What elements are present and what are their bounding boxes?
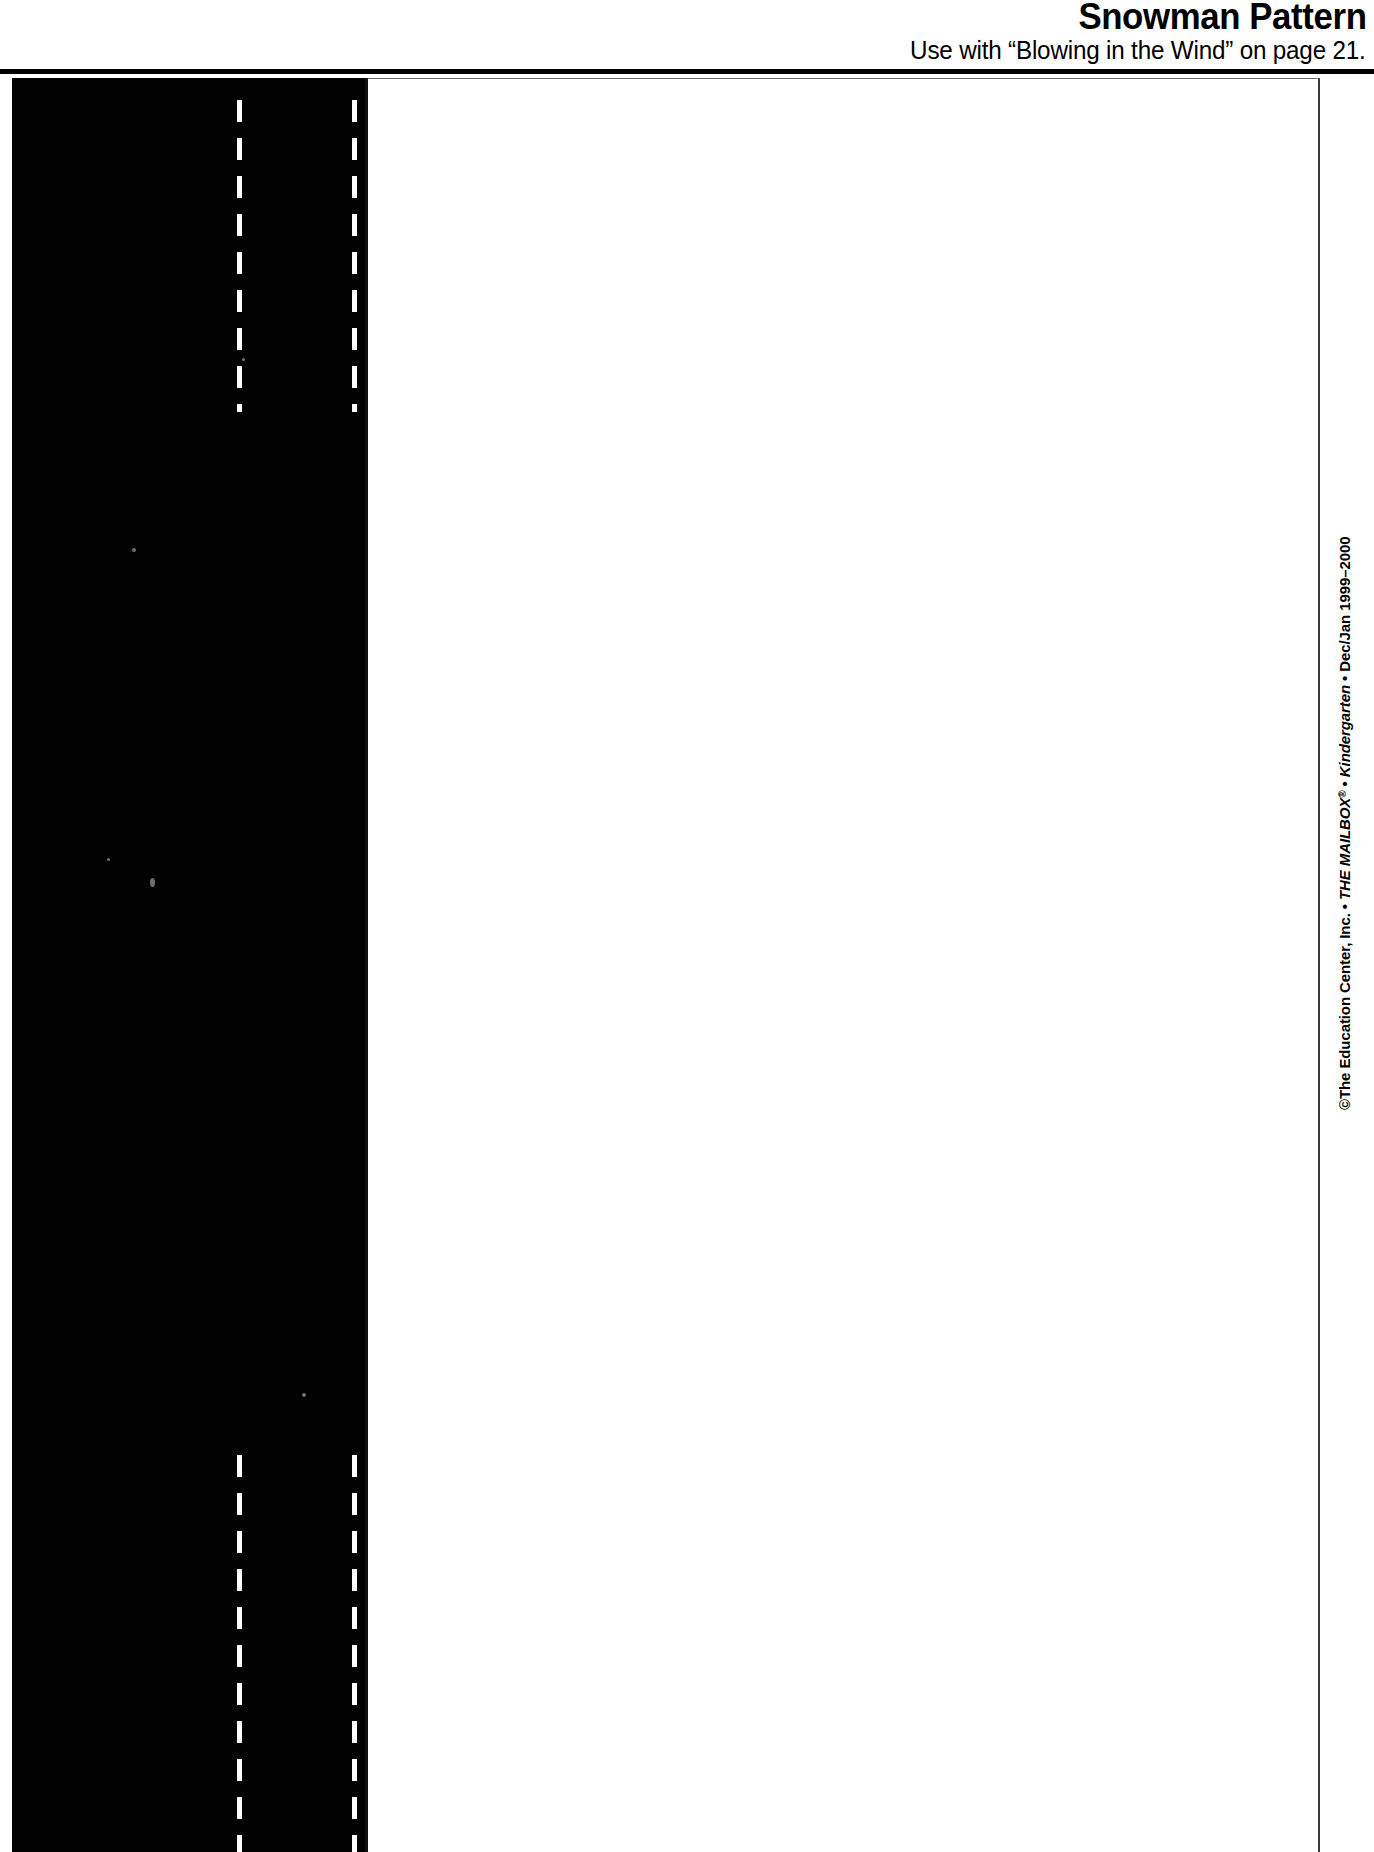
credit-separator-1: • [1336,904,1353,909]
copyright-credit-text: ©The Education Center, Inc. • THE MAILBO… [1330,570,1356,1110]
registered-trademark-icon: ® [1337,790,1348,797]
scan-speckle [132,548,136,552]
page-header: Snowman Pattern Use with “Blowing in the… [0,0,1374,70]
worksheet-page: Snowman Pattern Use with “Blowing in the… [0,0,1374,1852]
credit-separator-2: • [1336,781,1353,786]
copyright-credit: ©The Education Center, Inc. • THE MAILBO… [1330,570,1360,1110]
page-subtitle: Use with “Blowing in the Wind” on page 2… [910,36,1366,64]
scan-speckle [107,858,110,861]
fold-line-left-lower [237,1455,242,1852]
issue-date: Dec/Jan 1999–2000 [1336,537,1353,672]
pattern-black-region [12,78,365,1852]
credit-separator-3: • [1336,676,1353,681]
grade-level: Kindergarten [1336,685,1353,777]
copyright-symbol: © [1336,1099,1353,1110]
header-divider-rule [0,69,1374,74]
snowman-pattern-artwork [12,78,1320,1852]
scan-speckle [150,878,155,887]
scan-speckle [242,358,245,361]
fold-line-right-upper [352,100,357,412]
publisher-name: The Education Center, Inc. [1336,913,1353,1099]
pattern-white-panel-border [368,78,1320,1852]
fold-line-right-lower [352,1455,357,1852]
magazine-name: THE MAILBOX [1336,798,1353,900]
scan-speckle [302,1393,306,1397]
fold-line-left-upper [237,100,242,412]
page-title: Snowman Pattern [1078,0,1366,37]
pattern-white-panel [365,78,1320,1852]
